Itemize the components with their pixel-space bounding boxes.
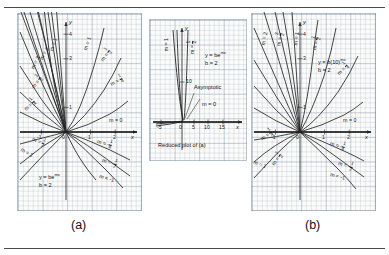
bottom-rule <box>4 248 385 249</box>
xtick-a-2: 2 <box>113 135 116 140</box>
xaxis-label-b: x <box>365 134 368 140</box>
xtick-b-1: 1 <box>322 135 325 140</box>
xtick-m-10: 10 <box>204 125 210 130</box>
ytick-a-1: 1 <box>69 105 72 110</box>
annotation-asymptotic: Asymptotic <box>194 84 221 90</box>
xtick-a--1: -1 <box>37 135 42 140</box>
caption-b: (b) <box>305 218 320 232</box>
yaxis-label-middle: y <box>185 25 188 31</box>
curve-label-m-m12: m = 12 <box>187 41 198 54</box>
caption-a: (a) <box>71 218 86 232</box>
yaxis-label-b: y <box>303 19 306 25</box>
curve-label-m-m1: m = 1 <box>164 38 169 51</box>
xtick-a-0: 0 <box>62 135 65 140</box>
caption-reduced-plot: Reduced plot of (a) <box>158 142 206 148</box>
ytick-b-4: 4 <box>303 32 306 37</box>
xtick-b-0: 0 <box>296 135 299 140</box>
ytick-a-3: 3 <box>69 56 72 61</box>
xtick-b-2: 2 <box>347 135 350 140</box>
equation-middle: y = bemx b = 2 <box>205 50 226 67</box>
curve-label-b-m32: m = 32 <box>273 32 286 47</box>
xtick-m--5: -5 <box>157 125 162 130</box>
equation-b: y = b(10)mx b = 2 <box>318 57 346 74</box>
top-rule <box>4 7 385 8</box>
curve-label-b-m0: m = 0 <box>343 118 356 123</box>
equation-a: y = bemx b = 2 <box>39 172 60 189</box>
chart-panel-a: m = 3 m = 2 m = 32 m = 1 m = 1 m = 12 m … <box>17 13 142 211</box>
xaxis-label-a: x <box>131 134 134 140</box>
xtick-m-5: 5 <box>192 125 195 130</box>
panel-a-plot <box>18 14 141 210</box>
figure-body: m = 3 m = 2 m = 32 m = 1 m = 1 m = 12 m … <box>8 13 381 241</box>
xtick-m-0: 0 <box>179 125 182 130</box>
chart-panel-b: m = 2 m = 32 m = 1 m = 12 m = 14 m = 14 … <box>251 13 376 211</box>
ytick-b-1: 1 <box>303 105 306 110</box>
xtick-m-15: 15 <box>219 125 225 130</box>
xtick-b--1: -1 <box>271 135 276 140</box>
ytick-m-10: 10 <box>186 79 192 84</box>
yaxis-label-a: y <box>69 19 72 25</box>
chart-panel-middle: m = 1 m = 12 Asymptotic m = 0 y = bemx b… <box>149 19 247 161</box>
curve-label-m-m0: m = 0 <box>202 102 216 108</box>
figure-page: m = 3 m = 2 m = 32 m = 1 m = 1 m = 12 m … <box>0 0 389 255</box>
ytick-b-3: 3 <box>303 56 306 61</box>
xaxis-label-middle: x <box>236 124 239 130</box>
curve-label-a-m0: m = 0 <box>109 118 122 123</box>
xtick-a-1: 1 <box>88 135 91 140</box>
ytick-a-4: 4 <box>69 32 72 37</box>
